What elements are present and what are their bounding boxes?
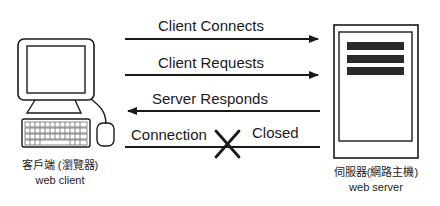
client-label-en: web client [10, 173, 110, 188]
label-closed: Closed [252, 125, 299, 140]
server-bar-2 [347, 55, 404, 63]
server-label-en: web server [324, 180, 428, 195]
server-bar-3 [347, 67, 404, 75]
label-connection: Connection [131, 127, 207, 142]
desktop-computer-icon [18, 39, 114, 147]
label-client-connects: Client Connects [158, 18, 264, 33]
monitor-frame [18, 39, 94, 100]
client-caption: 客戶端 (瀏覽器) web client [10, 158, 110, 188]
server-bar-1 [347, 42, 404, 50]
monitor-stand [27, 100, 81, 113]
server-tower-icon [334, 25, 418, 158]
server-caption: 伺服器(網路主機) web server [324, 165, 428, 195]
label-server-responds: Server Responds [152, 91, 268, 106]
server-label-zh: 伺服器(網路主機) [324, 165, 428, 180]
label-client-requests: Client Requests [158, 55, 264, 70]
mouse-cable [91, 99, 106, 124]
client-label-zh: 客戶端 (瀏覽器) [10, 158, 110, 173]
mouse-icon [97, 123, 114, 146]
monitor-screen [27, 46, 85, 93]
x-icon [216, 131, 239, 157]
